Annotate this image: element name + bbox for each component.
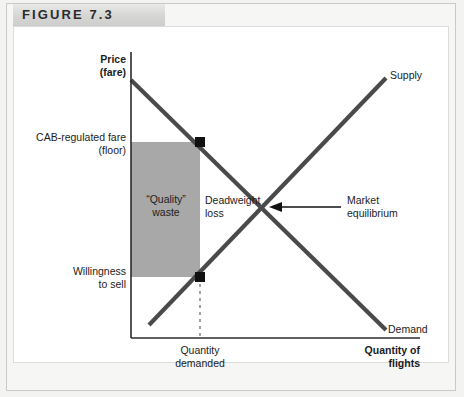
demand-point-marker xyxy=(195,137,205,147)
deadweight-loss-label: Deadweight loss xyxy=(205,194,279,219)
figure-number-band: FIGURE 7.3 xyxy=(13,4,165,26)
figure-root: FIGURE 7.3 Price (fare) CAB-regul xyxy=(0,0,464,397)
willingness-to-sell-label: Willingness to sell xyxy=(44,265,126,290)
demand-curve-label: Demand xyxy=(388,323,452,336)
cab-regulated-fare-label: CAB-regulated fare (floor) xyxy=(18,131,126,156)
figure-panel: Price (fare) CAB-regulated fare (floor) … xyxy=(13,26,449,363)
y-axis-title: Price (fare) xyxy=(58,53,126,78)
quality-waste-label: “Quality” waste xyxy=(133,193,199,218)
quantity-demanded-label: Quantity demanded xyxy=(162,344,238,369)
supply-curve-label: Supply xyxy=(390,69,450,82)
market-equilibrium-label: Market equilibrium xyxy=(347,194,433,219)
figure-number-label: FIGURE 7.3 xyxy=(22,7,114,22)
supply-point-marker xyxy=(195,272,205,282)
x-axis-title: Quantity of flights xyxy=(332,344,420,369)
